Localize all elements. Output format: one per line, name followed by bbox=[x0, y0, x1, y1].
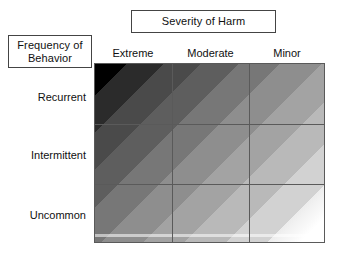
frequency-of-behavior-label: Frequency of Behavior bbox=[17, 39, 82, 64]
frequency-of-behavior-header-box: Frequency of Behavior bbox=[8, 35, 92, 68]
row-header-uncommon: Uncommon bbox=[0, 208, 90, 222]
risk-matrix-grid bbox=[94, 63, 325, 243]
column-header-extreme: Extreme bbox=[94, 46, 172, 61]
grid-line-horizontal-1 bbox=[95, 124, 324, 125]
row-header-intermittent: Intermittent bbox=[0, 148, 90, 162]
bottom-highlight-stripe bbox=[95, 234, 324, 237]
grid-line-vertical-1 bbox=[172, 64, 173, 242]
grid-line-horizontal-2 bbox=[95, 184, 324, 185]
severity-of-harm-header-box: Severity of Harm bbox=[131, 10, 276, 33]
risk-matrix-figure: Severity of Harm Frequency of Behavior E… bbox=[0, 0, 337, 257]
grayscale-gradient-fill bbox=[94, 63, 325, 243]
row-header-recurrent: Recurrent bbox=[0, 90, 90, 104]
grid-line-vertical-2 bbox=[249, 64, 250, 242]
severity-of-harm-label: Severity of Harm bbox=[162, 15, 246, 28]
column-header-moderate: Moderate bbox=[172, 46, 249, 61]
column-header-minor: Minor bbox=[249, 46, 325, 61]
